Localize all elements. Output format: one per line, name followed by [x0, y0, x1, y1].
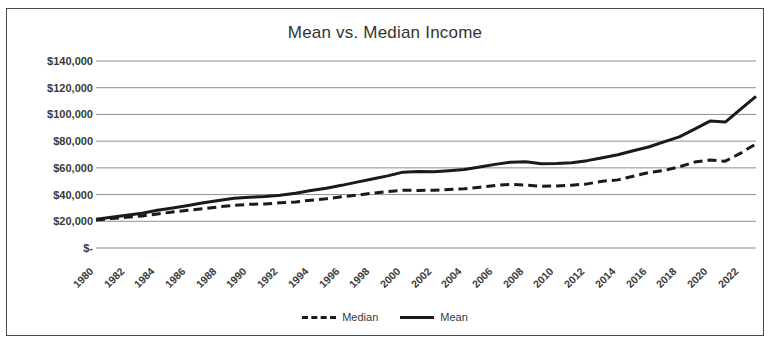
plot-area: [96, 61, 756, 248]
legend-item-median[interactable]: Median: [302, 311, 378, 323]
x-axis-tick-label: 2018: [654, 265, 679, 290]
legend-label: Median: [342, 311, 378, 323]
x-axis-tick-label: 2004: [439, 265, 464, 290]
x-axis-tick-label: 2022: [715, 265, 740, 290]
x-axis-tick-label: 2010: [531, 265, 556, 290]
y-axis: $140,000$120,000$100,000$80,000$60,000$4…: [15, 61, 93, 248]
chart-container: Mean vs. Median Income $140,000$120,000$…: [6, 8, 764, 336]
y-axis-tick-label: $120,000: [47, 82, 93, 94]
legend-swatch-icon: [302, 316, 336, 319]
y-axis-tick-label: $60,000: [53, 162, 93, 174]
plot-svg: [96, 61, 756, 248]
x-axis-tick-label: 1984: [132, 265, 157, 290]
y-axis-tick-label: $40,000: [53, 189, 93, 201]
x-axis-tick-label: 1990: [224, 265, 249, 290]
x-axis-tick-label: 1980: [71, 265, 96, 290]
x-axis-tick-label: 2020: [684, 265, 709, 290]
x-axis-tick-label: 1986: [163, 265, 188, 290]
series-line-median: [96, 144, 756, 220]
legend-swatch-icon: [400, 316, 434, 319]
legend-label: Mean: [440, 311, 468, 323]
legend-item-mean[interactable]: Mean: [400, 311, 468, 323]
x-axis-tick-label: 2000: [378, 265, 403, 290]
x-axis-tick-label: 1992: [255, 265, 280, 290]
x-axis-tick-label: 2014: [592, 265, 617, 290]
chart-legend: MedianMean: [7, 311, 763, 323]
x-axis-tick-label: 2012: [562, 265, 587, 290]
x-axis-tick-label: 1988: [193, 265, 218, 290]
x-axis: 1980198219841986198819901992199419961998…: [96, 250, 756, 308]
chart-title: Mean vs. Median Income: [7, 23, 763, 43]
x-axis-tick-label: 1994: [285, 265, 310, 290]
x-axis-tick-label: 2016: [623, 265, 648, 290]
y-axis-tick-label: $100,000: [47, 108, 93, 120]
x-axis-tick-label: 1982: [101, 265, 126, 290]
x-axis-tick-label: 2008: [500, 265, 525, 290]
x-axis-tick-label: 2002: [408, 265, 433, 290]
y-axis-tick-label: $140,000: [47, 55, 93, 67]
x-axis-tick-label: 2006: [470, 265, 495, 290]
x-axis-tick-label: 1996: [316, 265, 341, 290]
y-axis-tick-label: $20,000: [53, 215, 93, 227]
y-axis-tick-label: $80,000: [53, 135, 93, 147]
y-axis-tick-label: $-: [83, 242, 93, 254]
x-axis-tick-label: 1998: [347, 265, 372, 290]
